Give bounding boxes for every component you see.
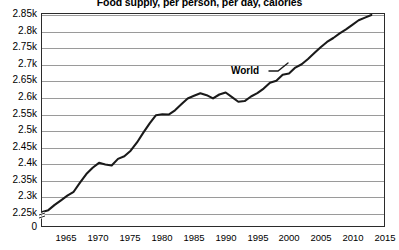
x-axis-tick-label: 1970 [87,233,108,243]
x-axis-tick-label: 1975 [119,233,140,243]
x-axis-tick-label: 1995 [247,233,268,243]
x-axis-tick-label: 1985 [183,233,204,243]
x-axis-tick-labels: 1965197019751980198519901995200020052010… [0,0,399,250]
series-annotation-world: World [231,65,259,76]
chart-figure: Food supply, per person, per day, calori… [0,0,399,250]
x-axis-tick-label: 1965 [55,233,76,243]
x-axis-tick-label: 1980 [151,233,172,243]
x-axis-tick-label: 2005 [310,233,331,243]
x-axis-tick-label: 2010 [342,233,363,243]
x-axis-tick-label: 1990 [215,233,236,243]
x-axis-tick-label: 2000 [278,233,299,243]
annotation-leader-line [268,62,290,80]
x-axis-tick-label: 2015 [374,233,395,243]
